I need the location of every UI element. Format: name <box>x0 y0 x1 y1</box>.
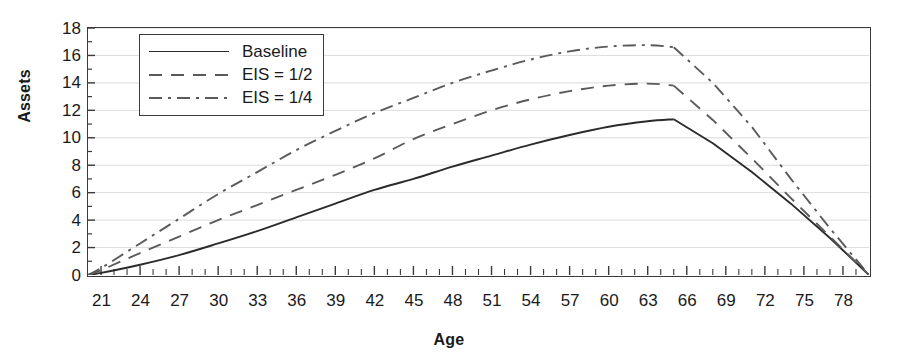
y-tick-label: 0 <box>41 267 81 284</box>
series-line-3-decumulation <box>674 47 869 275</box>
x-tick-label: 45 <box>394 292 434 309</box>
y-tick-label: 16 <box>41 47 81 64</box>
legend-label-eis-quarter: EIS = 1/4 <box>242 89 312 106</box>
chart-legend: Baseline EIS = 1/2 EIS = 1/4 <box>139 34 324 116</box>
series-line-1-decumulation <box>674 119 869 275</box>
x-tick-label: 75 <box>784 292 824 309</box>
legend-label-baseline: Baseline <box>242 43 307 60</box>
legend-key-dashdot-icon <box>149 91 229 105</box>
x-tick-label: 78 <box>823 292 863 309</box>
y-tick-label: 12 <box>41 102 81 119</box>
y-tick-label: 18 <box>41 20 81 37</box>
x-tick-label: 72 <box>745 292 785 309</box>
chart-figure: Assets 024681012141618 Baseline EIS = 1/… <box>0 0 898 362</box>
x-tick-label: 51 <box>472 292 512 309</box>
x-tick-label: 33 <box>238 292 278 309</box>
y-tick-label: 4 <box>41 212 81 229</box>
x-axis-ticks: 2124273033363942454851545760636669727578 <box>0 292 898 318</box>
x-tick-label: 30 <box>199 292 239 309</box>
legend-label-eis-half: EIS = 1/2 <box>242 66 312 83</box>
y-tick-label: 6 <box>41 184 81 201</box>
x-axis-title: Age <box>0 331 898 349</box>
x-tick-label: 63 <box>628 292 668 309</box>
x-tick-label: 27 <box>160 292 200 309</box>
dashed-line-icon <box>149 68 229 82</box>
y-tick-label: 10 <box>41 129 81 146</box>
y-axis-title: Assets <box>2 0 20 96</box>
legend-key-dashed-icon <box>149 68 229 82</box>
x-tick-label: 54 <box>511 292 551 309</box>
series-line-1 <box>88 119 674 275</box>
x-tick-label: 36 <box>277 292 317 309</box>
x-tick-label: 21 <box>82 292 122 309</box>
series-line-2-decumulation <box>674 86 869 275</box>
x-tick-label: 48 <box>433 292 473 309</box>
x-tick-label: 66 <box>667 292 707 309</box>
x-tick-label: 24 <box>121 292 161 309</box>
legend-item-baseline: Baseline <box>149 40 312 63</box>
legend-item-eis-quarter: EIS = 1/4 <box>149 86 312 109</box>
y-axis-title-text: Assets <box>16 69 34 123</box>
x-tick-label: 39 <box>316 292 356 309</box>
x-tick-label: 42 <box>355 292 395 309</box>
x-tick-label: 69 <box>706 292 746 309</box>
x-tick-label: 57 <box>550 292 590 309</box>
y-tick-label: 2 <box>41 239 81 256</box>
legend-key-solid-icon <box>149 45 229 59</box>
x-tick-label: 60 <box>589 292 629 309</box>
y-tick-label: 14 <box>41 74 81 91</box>
dash-dot-line-icon <box>149 91 229 105</box>
y-tick-label: 8 <box>41 157 81 174</box>
legend-item-eis-half: EIS = 1/2 <box>149 63 312 86</box>
